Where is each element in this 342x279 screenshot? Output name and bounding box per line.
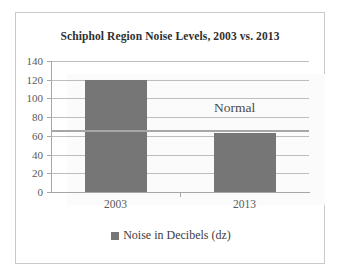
y-axis-tick-label: 120: [10, 74, 43, 86]
gridline: [51, 61, 309, 62]
normal-annotation-label: Normal: [214, 100, 255, 116]
y-axis-tick-label: 140: [10, 55, 43, 67]
x-axis-tick-label: 2003: [76, 198, 156, 210]
chart-legend: Noise in Decibels (dz): [0, 228, 342, 243]
y-axis-tick-label: 0: [10, 186, 43, 198]
y-axis-tick-label: 20: [10, 167, 43, 179]
y-axis-tick-label: 40: [10, 149, 43, 161]
y-axis-tick-label: 100: [10, 92, 43, 104]
bar-2003[interactable]: [85, 80, 147, 192]
x-axis-tick: [180, 192, 181, 197]
bar-2013[interactable]: [214, 133, 276, 192]
x-axis-tick-label: 2013: [205, 198, 285, 210]
y-axis-line: [51, 61, 52, 193]
normal-reference-line: [51, 130, 309, 132]
legend-label: Noise in Decibels (dz): [123, 228, 231, 243]
chart-title: Schiphol Region Noise Levels, 2003 vs. 2…: [16, 30, 324, 42]
legend-swatch-icon: [111, 232, 119, 240]
y-axis-tick-label: 80: [10, 111, 43, 123]
chart-frame: Schiphol Region Noise Levels, 2003 vs. 2…: [15, 12, 325, 264]
y-axis-tick-label: 60: [10, 130, 43, 142]
